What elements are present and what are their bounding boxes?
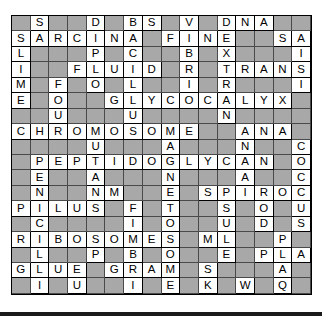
- crossword-letter-cell[interactable]: I: [180, 78, 199, 93]
- crossword-letter-cell[interactable]: M: [124, 232, 143, 247]
- crossword-letter-cell[interactable]: S: [274, 31, 293, 46]
- crossword-letter-cell[interactable]: S: [292, 217, 311, 232]
- crossword-letter-cell[interactable]: B: [124, 248, 143, 263]
- crossword-letter-cell[interactable]: Y: [199, 155, 218, 170]
- crossword-letter-cell[interactable]: S: [199, 263, 218, 278]
- crossword-letter-cell[interactable]: N: [87, 186, 106, 201]
- crossword-letter-cell[interactable]: U: [49, 263, 68, 278]
- crossword-letter-cell[interactable]: Q: [274, 278, 293, 293]
- crossword-letter-cell[interactable]: O: [255, 201, 274, 216]
- crossword-letter-cell[interactable]: L: [218, 232, 237, 247]
- crossword-letter-cell[interactable]: E: [68, 263, 87, 278]
- crossword-letter-cell[interactable]: C: [292, 170, 311, 185]
- crossword-letter-cell[interactable]: O: [49, 93, 68, 108]
- crossword-letter-cell[interactable]: K: [199, 278, 218, 293]
- crossword-letter-cell[interactable]: G: [105, 263, 124, 278]
- crossword-letter-cell[interactable]: I: [87, 31, 106, 46]
- crossword-letter-cell[interactable]: C: [124, 47, 143, 62]
- crossword-letter-cell[interactable]: D: [218, 16, 237, 31]
- crossword-letter-cell[interactable]: C: [68, 31, 87, 46]
- crossword-letter-cell[interactable]: C: [31, 217, 50, 232]
- crossword-letter-cell[interactable]: L: [124, 78, 143, 93]
- crossword-letter-cell[interactable]: I: [292, 47, 311, 62]
- crossword-letter-cell[interactable]: V: [180, 16, 199, 31]
- crossword-letter-cell[interactable]: A: [274, 124, 293, 139]
- crossword-letter-cell[interactable]: E: [31, 170, 50, 185]
- crossword-letter-cell[interactable]: E: [162, 278, 181, 293]
- crossword-letter-cell[interactable]: E: [162, 186, 181, 201]
- crossword-letter-cell[interactable]: D: [143, 62, 162, 77]
- crossword-letter-cell[interactable]: N: [105, 31, 124, 46]
- crossword-letter-cell[interactable]: F: [124, 201, 143, 216]
- crossword-letter-cell[interactable]: A: [236, 155, 255, 170]
- crossword-letter-cell[interactable]: N: [255, 124, 274, 139]
- crossword-letter-cell[interactable]: I: [124, 62, 143, 77]
- crossword-letter-cell[interactable]: O: [162, 248, 181, 263]
- crossword-letter-cell[interactable]: L: [49, 201, 68, 216]
- crossword-letter-cell[interactable]: P: [255, 248, 274, 263]
- crossword-letter-cell[interactable]: C: [199, 93, 218, 108]
- crossword-letter-cell[interactable]: R: [180, 62, 199, 77]
- crossword-letter-cell[interactable]: N: [236, 16, 255, 31]
- crossword-letter-cell[interactable]: S: [124, 124, 143, 139]
- crossword-letter-cell[interactable]: X: [274, 93, 293, 108]
- crossword-letter-cell[interactable]: U: [68, 201, 87, 216]
- crossword-letter-cell[interactable]: P: [87, 47, 106, 62]
- crossword-letter-cell[interactable]: M: [87, 124, 106, 139]
- crossword-letter-cell[interactable]: O: [68, 124, 87, 139]
- crossword-letter-cell[interactable]: A: [218, 93, 237, 108]
- crossword-letter-cell[interactable]: R: [124, 263, 143, 278]
- crossword-letter-cell[interactable]: M: [105, 186, 124, 201]
- crossword-letter-cell[interactable]: A: [236, 170, 255, 185]
- crossword-letter-cell[interactable]: I: [124, 278, 143, 293]
- crossword-letter-cell[interactable]: F: [49, 78, 68, 93]
- crossword-letter-cell[interactable]: A: [274, 263, 293, 278]
- crossword-letter-cell[interactable]: T: [218, 62, 237, 77]
- crossword-letter-cell[interactable]: S: [87, 201, 106, 216]
- crossword-letter-cell[interactable]: L: [31, 263, 50, 278]
- crossword-letter-cell[interactable]: U: [124, 109, 143, 124]
- crossword-letter-cell[interactable]: Y: [143, 93, 162, 108]
- crossword-letter-cell[interactable]: N: [218, 109, 237, 124]
- crossword-letter-cell[interactable]: I: [180, 31, 199, 46]
- crossword-letter-cell[interactable]: I: [12, 62, 31, 77]
- crossword-letter-cell[interactable]: O: [105, 232, 124, 247]
- crossword-letter-cell[interactable]: R: [12, 232, 31, 247]
- crossword-letter-cell[interactable]: A: [292, 248, 311, 263]
- crossword-letter-cell[interactable]: O: [68, 232, 87, 247]
- crossword-letter-cell[interactable]: S: [218, 201, 237, 216]
- crossword-letter-cell[interactable]: M: [199, 232, 218, 247]
- crossword-letter-cell[interactable]: A: [124, 31, 143, 46]
- crossword-letter-cell[interactable]: N: [31, 186, 50, 201]
- crossword-letter-cell[interactable]: A: [255, 62, 274, 77]
- crossword-letter-cell[interactable]: I: [292, 78, 311, 93]
- crossword-letter-cell[interactable]: R: [49, 31, 68, 46]
- crossword-letter-cell[interactable]: D: [255, 217, 274, 232]
- crossword-letter-cell[interactable]: I: [31, 201, 50, 216]
- crossword-letter-cell[interactable]: L: [87, 62, 106, 77]
- crossword-letter-cell[interactable]: C: [218, 155, 237, 170]
- crossword-letter-cell[interactable]: E: [218, 248, 237, 263]
- crossword-letter-cell[interactable]: M: [162, 263, 181, 278]
- crossword-letter-cell[interactable]: S: [12, 31, 31, 46]
- crossword-letter-cell[interactable]: G: [12, 263, 31, 278]
- crossword-letter-cell[interactable]: C: [12, 124, 31, 139]
- crossword-letter-cell[interactable]: O: [180, 93, 199, 108]
- crossword-letter-cell[interactable]: M: [12, 78, 31, 93]
- crossword-letter-cell[interactable]: I: [105, 155, 124, 170]
- crossword-letter-cell[interactable]: A: [87, 170, 106, 185]
- crossword-letter-cell[interactable]: S: [162, 232, 181, 247]
- crossword-letter-cell[interactable]: U: [292, 201, 311, 216]
- crossword-letter-cell[interactable]: A: [255, 16, 274, 31]
- crossword-letter-cell[interactable]: A: [31, 31, 50, 46]
- crossword-letter-cell[interactable]: A: [236, 124, 255, 139]
- crossword-letter-cell[interactable]: S: [292, 62, 311, 77]
- crossword-letter-cell[interactable]: R: [255, 186, 274, 201]
- crossword-letter-cell[interactable]: U: [218, 217, 237, 232]
- crossword-letter-cell[interactable]: I: [236, 186, 255, 201]
- crossword-letter-cell[interactable]: S: [87, 232, 106, 247]
- crossword-letter-cell[interactable]: O: [162, 217, 181, 232]
- crossword-letter-cell[interactable]: F: [68, 62, 87, 77]
- crossword-letter-cell[interactable]: S: [31, 16, 50, 31]
- crossword-letter-cell[interactable]: I: [124, 217, 143, 232]
